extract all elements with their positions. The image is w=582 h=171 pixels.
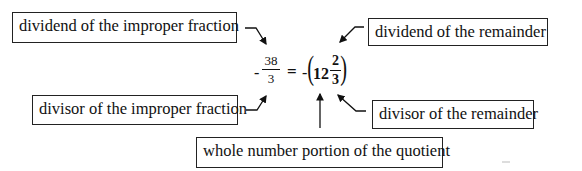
equals-sign: = [287, 63, 297, 80]
arrow-to-improper-numerator [245, 28, 266, 44]
close-parenthesis: ) [340, 51, 347, 85]
arrow-to-improper-denominator [246, 96, 266, 110]
improper-fraction: 38 3 [262, 54, 280, 85]
left-minus-sign: - [254, 65, 259, 81]
improper-numerator: 38 [262, 54, 280, 67]
whole-number-12: 12 [313, 66, 329, 82]
arrows-layer [0, 0, 582, 171]
arrow-to-remainder-numerator [340, 27, 364, 42]
fraction-bar [262, 69, 280, 70]
arrow-to-remainder-denominator [338, 95, 366, 111]
improper-denominator: 3 [262, 72, 280, 85]
